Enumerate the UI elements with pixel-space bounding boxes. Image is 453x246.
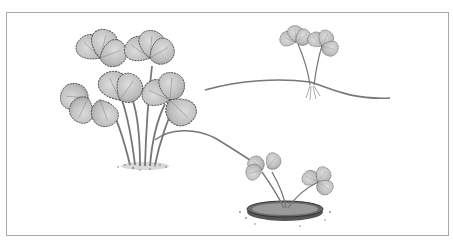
soil-mother <box>117 162 169 171</box>
strawberry-illustration <box>0 0 453 246</box>
daughter-plant-potted <box>245 150 336 208</box>
runner-lower <box>155 131 262 168</box>
mother-plant-leaves <box>59 26 202 132</box>
runner-upper <box>205 80 390 98</box>
